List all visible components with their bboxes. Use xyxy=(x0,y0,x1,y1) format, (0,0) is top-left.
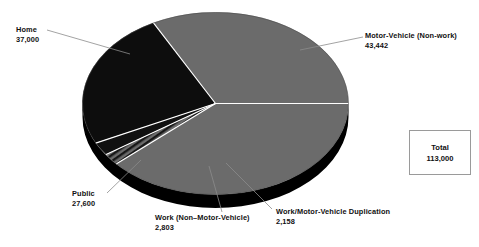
label-duplication-value: 2,158 xyxy=(276,217,390,227)
label-duplication: Work/Motor-Vehicle Duplication 2,158 xyxy=(276,207,390,226)
label-public: Public 27,600 xyxy=(72,189,95,208)
label-work-value: 2,803 xyxy=(155,223,250,233)
pie-chart-figure: Home 37,000 Motor-Vehicle (Non-work) 43,… xyxy=(0,0,479,247)
label-duplication-name: Work/Motor-Vehicle Duplication xyxy=(276,207,390,216)
label-motor-vehicle-name: Motor-Vehicle (Non-work) xyxy=(365,31,457,40)
total-value: 113,000 xyxy=(426,153,453,164)
total-label: Total xyxy=(431,142,449,153)
label-home: Home 37,000 xyxy=(16,25,39,44)
label-work-name: Work (Non–Motor-Vehicle) xyxy=(155,213,250,222)
label-public-value: 27,600 xyxy=(72,199,95,209)
label-public-name: Public xyxy=(72,189,95,198)
label-home-name: Home xyxy=(16,25,37,34)
label-work: Work (Non–Motor-Vehicle) 2,803 xyxy=(155,213,250,232)
label-home-value: 37,000 xyxy=(16,35,39,45)
pie-top-face xyxy=(82,12,348,194)
label-motor-vehicle-value: 43,442 xyxy=(365,41,457,51)
total-box: Total 113,000 xyxy=(409,130,471,175)
label-motor-vehicle: Motor-Vehicle (Non-work) 43,442 xyxy=(365,31,457,50)
